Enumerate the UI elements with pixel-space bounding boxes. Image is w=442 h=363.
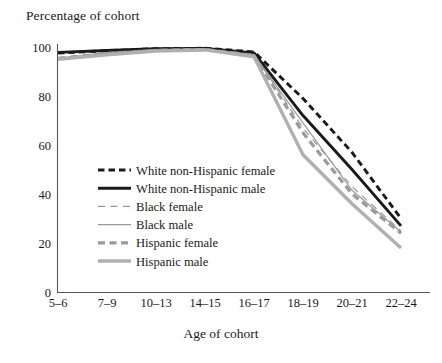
- x-tick-label: 7–9: [98, 296, 117, 310]
- legend-item-label: White non-Hispanic female: [136, 164, 276, 178]
- series-line: [58, 49, 401, 232]
- legend-item-label: Black female: [136, 200, 203, 214]
- legend-item-label: Hispanic male: [136, 255, 209, 269]
- y-tick-label: 60: [39, 139, 52, 153]
- x-tick-label: 22–24: [385, 296, 417, 310]
- y-tick-label: 80: [39, 90, 52, 104]
- line-chart-plot: 020406080100 5–67–910–1314–1516–1718–192…: [0, 0, 442, 363]
- chart-container: Percentage of cohort 020406080100 5–67–9…: [0, 0, 442, 363]
- x-axis-tick-labels: 5–67–910–1314–1516–1718–1920–2122–24: [49, 296, 418, 310]
- legend-item-label: White non-Hispanic male: [136, 182, 266, 196]
- data-series-group: [58, 48, 401, 248]
- legend-item-label: Black male: [136, 218, 193, 232]
- x-tick-label: 18–19: [287, 296, 318, 310]
- y-tick-label: 100: [32, 41, 51, 55]
- series-line: [58, 49, 401, 233]
- x-tick-label: 20–21: [336, 296, 367, 310]
- legend-item-label: Hispanic female: [136, 236, 219, 250]
- chart-legend: White non-Hispanic femaleWhite non-Hispa…: [98, 164, 276, 269]
- y-tick-label: 40: [39, 188, 52, 202]
- x-axis-title: Age of cohort: [0, 326, 442, 342]
- x-tick-label: 10–13: [140, 296, 171, 310]
- series-line: [58, 50, 401, 248]
- x-tick-label: 14–15: [189, 296, 220, 310]
- y-axis-tick-labels: 020406080100: [32, 41, 51, 300]
- y-tick-label: 20: [39, 237, 52, 251]
- x-tick-label: 16–17: [238, 296, 269, 310]
- x-tick-label: 5–6: [49, 296, 68, 310]
